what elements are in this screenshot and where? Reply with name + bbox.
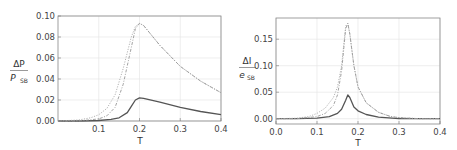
y-tick-label: 0.10: [254, 61, 273, 71]
x-axis-label: T: [136, 136, 143, 146]
y-tick-label: 0.04: [36, 74, 55, 84]
y-tick-label: 0.00: [36, 116, 55, 126]
x-tick-label: 0.0: [269, 127, 283, 137]
x-axis-label: T: [354, 138, 361, 148]
y-tick-label: 0.05: [254, 87, 273, 97]
x-tick-label: 0.4: [433, 127, 447, 137]
grid: [58, 16, 221, 121]
y-tick-label: 0.15: [254, 34, 273, 44]
y-tick-label: 0.06: [36, 53, 55, 63]
x-tick-label: 0.2: [351, 127, 365, 137]
y-label-numerator: ΔI: [243, 56, 252, 66]
x-tick-label: 0.3: [173, 124, 187, 134]
y-tick-label: 0.10: [36, 11, 55, 21]
y-label-denominator: P: [10, 73, 16, 83]
y-tick-label: 0.00: [254, 114, 273, 124]
x-tick-label: 0.2: [133, 124, 147, 134]
ticks: 0.10.20.30.40.000.020.040.060.080.10: [36, 11, 228, 134]
ticks: 0.00.10.20.30.40.000.050.100.15: [254, 34, 447, 137]
y-label-subscript: SB: [20, 77, 28, 84]
y-label-numerator: ΔP: [13, 59, 25, 69]
y-axis-label: ΔP P SB: [10, 59, 28, 84]
y-tick-label: 0.02: [36, 95, 55, 105]
grid: [276, 18, 440, 124]
figure: 0.10.20.30.40.000.020.040.060.080.10 T Δ…: [0, 0, 457, 150]
x-tick-label: 0.1: [92, 124, 106, 134]
chart-current-difference: 0.00.10.20.30.40.000.050.100.15 T ΔI e S…: [239, 18, 447, 148]
chart-power-difference: 0.10.20.30.40.000.020.040.060.080.10 T Δ…: [10, 11, 228, 146]
y-label-denominator: e: [239, 70, 245, 80]
x-tick-label: 0.1: [310, 127, 324, 137]
y-tick-label: 0.08: [36, 32, 55, 42]
x-tick-label: 0.4: [214, 124, 228, 134]
x-tick-label: 0.3: [392, 127, 406, 137]
y-label-subscript: SB: [247, 74, 255, 81]
